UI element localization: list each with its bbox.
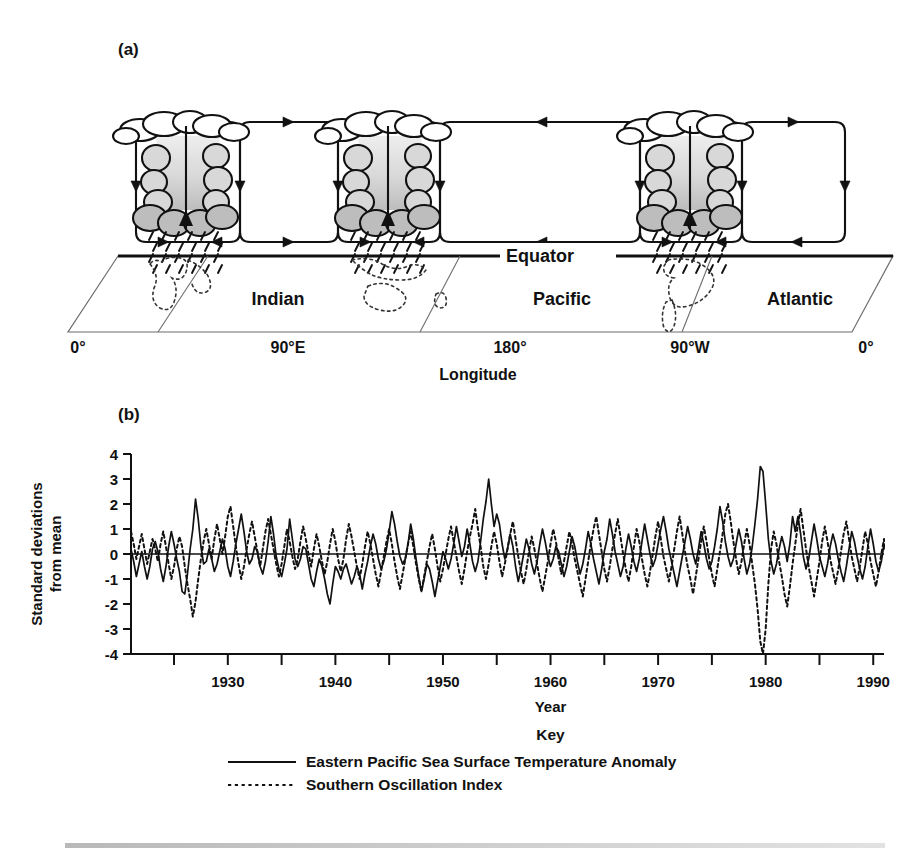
key-label-1: Eastern Pacific Sea Surface Temperature … <box>306 753 677 770</box>
y-tick-label-6: -2 <box>105 596 118 613</box>
rain-streak <box>407 265 411 273</box>
y-tick-label-5: -1 <box>105 571 118 588</box>
flow-arrow-right <box>283 237 294 247</box>
cloud-base-lobe <box>206 205 238 229</box>
flow-arrow-down <box>235 181 245 192</box>
rain-streak <box>709 265 713 273</box>
longitude-tick-0: 0° <box>70 339 85 356</box>
panel-a-label: (a) <box>118 40 139 60</box>
key-title: Key <box>536 726 565 743</box>
convection-cell-3 <box>617 111 753 236</box>
y-axis-title: Standard deviationsfrom mean <box>28 482 64 625</box>
flow-arrow-down <box>737 181 747 192</box>
y-tick-label-1: 3 <box>110 471 118 488</box>
rain-streak <box>368 243 372 251</box>
enso-timeseries-chart: 43210-1-2-3-4193019401950196019701980199… <box>0 430 919 850</box>
chart-key: KeyEastern Pacific Sea Surface Temperatu… <box>228 726 677 793</box>
rain-streak <box>166 243 170 251</box>
flow-arrow-down <box>333 181 343 192</box>
rain-streak <box>657 265 661 273</box>
longitude-tick-4: 0° <box>858 339 873 356</box>
cloud-anvil-lobe <box>617 128 643 144</box>
flow-arrow-left <box>791 237 802 247</box>
cloud-mid-lobe <box>203 144 229 168</box>
rain-streak <box>394 243 398 251</box>
cloud-anvil-lobe <box>315 128 341 144</box>
circulation-cell-4 <box>440 122 640 242</box>
longitude-tick-3: 90°W <box>670 339 710 356</box>
rain-streak <box>381 243 385 251</box>
cloud-mid-lobe <box>142 145 170 171</box>
rain-streak <box>355 243 359 251</box>
rain-streak <box>166 265 170 273</box>
rain-streak <box>683 243 687 251</box>
y-tick-label-0: 4 <box>110 446 119 463</box>
key-label-2: Southern Oscillation Index <box>306 776 503 793</box>
coastline-arabia <box>188 260 211 293</box>
longitude-tick-1: 90°E <box>271 339 306 356</box>
y-tick-label-4: 0 <box>110 546 118 563</box>
cloud-base-lobe <box>408 205 440 229</box>
y-tick-label-7: -3 <box>105 621 118 638</box>
cloud-anvil-lobe <box>113 128 139 144</box>
x-tick-label-5: 1980 <box>749 673 782 690</box>
longitude-axis-title: Longitude <box>439 366 516 383</box>
series-group <box>131 467 884 655</box>
x-tick-label-6: 1990 <box>857 673 890 690</box>
rain-streak <box>351 232 355 240</box>
flow-arrow-down <box>131 181 141 192</box>
coastline-australia <box>364 283 406 311</box>
cloud-mid-lobe <box>405 144 431 168</box>
ocean-plane: EquatorIndianPacificAtlantic <box>68 243 893 332</box>
rain-streak <box>192 265 196 273</box>
rain-streak <box>149 232 153 240</box>
cloud-anvil-lobe <box>219 123 249 141</box>
x-tick-label-0: 1930 <box>211 673 244 690</box>
cloud-mid-lobe <box>707 144 733 168</box>
flow-arrow-down <box>635 181 645 192</box>
rain-streak <box>205 243 209 251</box>
x-tick-label-3: 1960 <box>534 673 567 690</box>
rain-streak <box>683 265 687 273</box>
panel-b-label: (b) <box>118 405 140 425</box>
rain-streak <box>218 265 222 273</box>
x-axis-title: Year <box>535 698 567 715</box>
rain-streak <box>381 265 385 273</box>
flow-arrow-down <box>840 181 850 192</box>
rain-streak <box>722 265 726 273</box>
convection-cell-2 <box>315 111 451 236</box>
coastline-africa <box>150 258 187 310</box>
rain-streak <box>179 265 183 273</box>
rain-streak <box>657 243 661 251</box>
x-tick-label-4: 1970 <box>641 673 674 690</box>
footer-rule <box>65 843 885 848</box>
ocean-label-pacific: Pacific <box>533 289 591 309</box>
cloud-mid-lobe <box>646 145 674 171</box>
meridian-line-1 <box>420 256 460 332</box>
series-line-1 <box>131 467 884 605</box>
figure-container: (a) (b) EquatorIndianPacificAtlantic0°90… <box>0 0 919 864</box>
rain-streak <box>653 232 657 240</box>
cloud-anvil-lobe <box>421 123 451 141</box>
rain-streak <box>368 265 372 273</box>
rain-streak <box>192 243 196 251</box>
y-axis-title-line-0: Standard deviations <box>28 482 45 625</box>
longitude-tick-2: 180° <box>493 339 526 356</box>
rain-streak <box>407 243 411 251</box>
flow-arrow-down <box>435 181 445 192</box>
ocean-label-indian: Indian <box>252 289 305 309</box>
circulation-cell-6 <box>742 122 845 242</box>
cloud-base-lobe <box>710 205 742 229</box>
y-tick-label-8: -4 <box>105 646 119 663</box>
ocean-label-atlantic: Atlantic <box>767 289 833 309</box>
flow-arrow-right <box>283 117 294 127</box>
y-axis-title-line-1: from mean <box>47 516 64 593</box>
rain-streak <box>696 243 700 251</box>
rain-streak <box>670 243 674 251</box>
convection-cell-1 <box>113 111 249 236</box>
cloud-mid-lobe <box>344 145 372 171</box>
rain-streak <box>153 243 157 251</box>
y-tick-label-2: 2 <box>110 496 118 513</box>
cloud-anvil-lobe <box>723 123 753 141</box>
y-tick-label-3: 1 <box>110 521 118 538</box>
